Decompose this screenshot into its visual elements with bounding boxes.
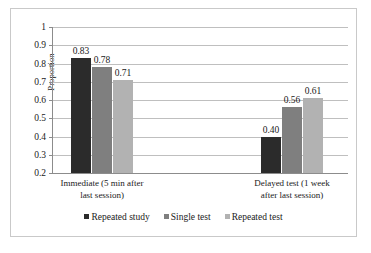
bar[interactable] <box>92 67 112 173</box>
legend-item[interactable]: Repeated study <box>84 212 149 222</box>
y-axis-tick-label: 0.9 <box>34 40 46 50</box>
y-axis-tick <box>49 27 53 28</box>
bar[interactable] <box>71 58 91 173</box>
x-axis-category-label-line: after last session) <box>222 190 362 202</box>
x-axis-category-label-line: Immediate (5 min after <box>32 178 172 190</box>
legend-swatch-icon <box>225 214 230 219</box>
y-axis-tick <box>49 173 53 174</box>
chart-legend: Repeated studySingle testRepeated test <box>11 212 356 222</box>
y-axis-tick <box>49 82 53 83</box>
y-axis-tick-label: 0.2 <box>34 168 46 178</box>
y-axis-tick-label: 0.5 <box>34 113 46 123</box>
x-axis-category-label: Immediate (5 min afterlast session) <box>32 178 172 201</box>
bar-value-label: 0.56 <box>284 95 301 105</box>
legend-swatch-icon <box>84 214 89 219</box>
y-axis-tick-label: 0.4 <box>34 131 46 141</box>
y-axis-tick-label: 0.6 <box>34 95 46 105</box>
y-axis-tick <box>49 45 53 46</box>
gridline <box>53 27 348 28</box>
bar[interactable] <box>113 80 133 173</box>
x-axis-line <box>53 173 348 174</box>
bar-value-label: 0.78 <box>94 55 111 65</box>
y-axis-tick <box>49 137 53 138</box>
legend-swatch-icon <box>164 214 169 219</box>
y-axis-tick <box>49 100 53 101</box>
chart-figure: Proportion 10.90.80.70.60.50.40.30.2 0.8… <box>10 8 357 237</box>
y-axis-tick <box>49 118 53 119</box>
bar-value-label: 0.40 <box>263 125 280 135</box>
x-axis-category-label-line: last session) <box>32 190 172 202</box>
bar-value-label: 0.71 <box>115 68 132 78</box>
plot-area: 10.90.80.70.60.50.40.30.2 0.830.780.710.… <box>53 27 348 173</box>
y-axis-tick-label: 0.3 <box>34 150 46 160</box>
y-axis-tick <box>49 64 53 65</box>
y-axis-tick <box>49 155 53 156</box>
bar[interactable] <box>303 98 323 173</box>
bar-value-label: 0.61 <box>305 86 322 96</box>
x-axis-category-label: Delayed test (1 weekafter last session) <box>222 178 362 201</box>
legend-label: Repeated study <box>91 212 149 222</box>
bar[interactable] <box>282 107 302 173</box>
y-axis-tick-label: 1 <box>41 22 46 32</box>
bar[interactable] <box>261 137 281 174</box>
legend-item[interactable]: Single test <box>164 212 211 222</box>
y-axis-tick-label: 0.7 <box>34 77 46 87</box>
bar-value-label: 0.83 <box>73 46 90 56</box>
legend-label: Repeated test <box>232 212 283 222</box>
gridline <box>53 45 348 46</box>
legend-label: Single test <box>171 212 211 222</box>
x-axis-category-label-line: Delayed test (1 week <box>222 178 362 190</box>
y-axis-tick-label: 0.8 <box>34 58 46 68</box>
legend-item[interactable]: Repeated test <box>225 212 283 222</box>
